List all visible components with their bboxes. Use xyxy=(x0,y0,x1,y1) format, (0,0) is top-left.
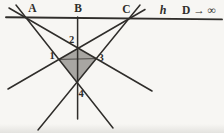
line-C-3-4 xyxy=(38,5,140,130)
label-line-h: h xyxy=(160,3,167,17)
label-point-D-infinity: D → ∞ xyxy=(182,4,216,16)
label-point-B: B xyxy=(74,2,82,14)
label-vertex-2: 2 xyxy=(69,34,74,45)
label-vertex-3: 3 xyxy=(98,52,103,63)
label-point-C: C xyxy=(122,3,130,15)
label-vertex-4: 4 xyxy=(78,88,84,99)
label-vertex-1: 1 xyxy=(49,50,54,61)
line-h xyxy=(6,17,222,19)
label-point-A: A xyxy=(28,2,37,14)
scanned-figure-page: A B C h D → ∞ 1 2 3 4 xyxy=(0,0,224,133)
line-A-1-4 xyxy=(16,5,113,128)
geometry-figure: A B C h D → ∞ 1 2 3 4 xyxy=(0,0,224,133)
